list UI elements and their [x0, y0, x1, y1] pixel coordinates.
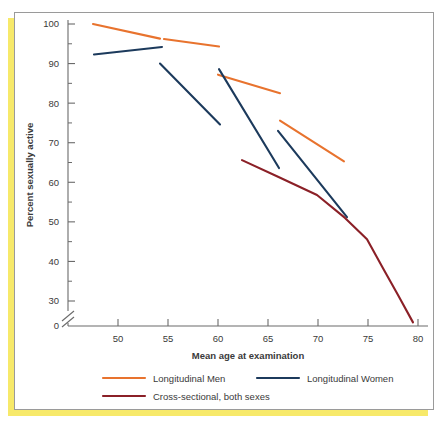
series-0-segment-3 — [280, 121, 344, 162]
x-tick-label-70: 70 — [313, 333, 324, 344]
series-1-segment-1 — [160, 64, 220, 125]
series-layer — [93, 24, 413, 322]
figure-panel: 03040506070809010050556065707580Mean age… — [14, 12, 434, 410]
axes-layer — [62, 20, 428, 327]
y-tick-label-90: 90 — [48, 58, 59, 69]
series-2-segment-0 — [242, 160, 413, 322]
x-tick-label-50: 50 — [113, 333, 124, 344]
series-0-segment-1 — [164, 39, 219, 47]
x-tick-label-75: 75 — [363, 333, 374, 344]
y-tick-label-50: 50 — [48, 216, 59, 227]
legend-label-1: Longitudinal Women — [307, 373, 393, 384]
legend-label-0: Longitudinal Men — [153, 373, 225, 384]
series-1-segment-3 — [278, 131, 347, 217]
x-axis-title: Mean age at examination — [192, 350, 305, 361]
legend-label-2: Cross-sectional, both sexes — [153, 391, 270, 402]
y-tick-label-0: 0 — [54, 320, 59, 331]
y-tick-label-40: 40 — [48, 256, 59, 267]
chart-svg: 03040506070809010050556065707580Mean age… — [15, 13, 435, 411]
x-tick-label-60: 60 — [213, 333, 224, 344]
labels-layer: 03040506070809010050556065707580Mean age… — [24, 18, 423, 361]
chart-figure-root: 03040506070809010050556065707580Mean age… — [0, 0, 447, 424]
legend-layer: Longitudinal MenLongitudinal WomenCross-… — [103, 373, 393, 402]
y-axis-break-mark-upper — [62, 311, 74, 321]
y-tick-label-30: 30 — [48, 295, 59, 306]
x-tick-label-80: 80 — [413, 333, 424, 344]
y-tick-label-60: 60 — [48, 177, 59, 188]
series-1-segment-0 — [94, 47, 162, 55]
x-tick-label-55: 55 — [163, 333, 174, 344]
chart-canvas: 03040506070809010050556065707580Mean age… — [15, 13, 435, 411]
x-tick-label-65: 65 — [263, 333, 274, 344]
series-0-segment-0 — [93, 24, 160, 39]
y-tick-label-80: 80 — [48, 98, 59, 109]
y-tick-label-70: 70 — [48, 137, 59, 148]
y-tick-label-100: 100 — [43, 18, 59, 29]
y-axis-title: Percent sexually active — [24, 123, 35, 228]
